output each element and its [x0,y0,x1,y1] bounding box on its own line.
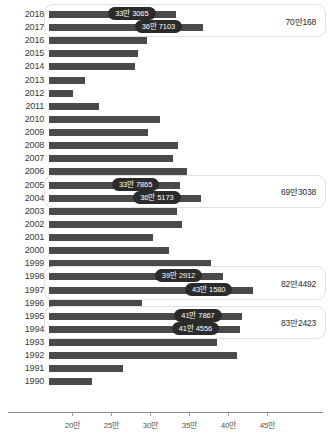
bar [49,103,99,110]
y-axis-tick-label: 2000 [6,244,44,257]
bar [49,339,217,346]
y-axis-tick-label: 2004 [6,192,44,205]
bar-row: 2007 [0,152,329,165]
bar [49,247,169,254]
x-axis-tick [228,412,229,416]
bar-value-label: 33만 7865 [112,178,159,191]
x-axis-tick-label: 25만 [104,419,119,430]
x-axis-tick-label: 30만 [143,419,158,430]
faint-artifact: · [207,1,209,7]
bar [49,63,135,70]
faint-artifact: · [286,1,288,7]
faint-artifact: · [301,1,303,7]
bar-row: 2000 [0,244,329,257]
bar [49,116,160,123]
bar-row: 2011 [0,100,329,113]
bar-value-label: 33만 3065 [108,7,155,20]
x-axis-tick-label: 20만 [65,419,80,430]
bar-row: 199441만 4556 [0,323,329,336]
bar [49,352,237,359]
bar-row: 1990 [0,375,329,388]
bar-value-label: 43만 1580 [185,283,232,296]
bar-row: 1992 [0,349,329,362]
y-axis-tick-label: 2001 [6,231,44,244]
bar [49,90,73,97]
bar-row: 2012 [0,87,329,100]
bar-row: 199541만 7867 [0,310,329,323]
y-axis-tick-label: 1999 [6,257,44,270]
bar [49,168,187,175]
bar-row: 2001 [0,231,329,244]
y-axis-tick-label: 2003 [6,205,44,218]
bar-row: 1999 [0,257,329,270]
bar-row: 2008 [0,139,329,152]
bar-row: 2014 [0,60,329,73]
bar [49,365,123,372]
x-axis-tick [267,412,268,416]
x-axis-tick [150,412,151,416]
bar-row: 199839만 2912 [0,270,329,283]
y-axis-tick-label: 2005 [6,179,44,192]
y-axis-tick-label: 2011 [6,100,44,113]
y-axis-tick-label: 2007 [6,152,44,165]
bar-row: 2010 [0,113,329,126]
y-axis-tick-label: 2016 [6,34,44,47]
x-axis-tick [111,412,112,416]
bar [49,129,148,136]
bar-value-label: 36만 7103 [135,20,182,33]
bar-row: 200436만 5173 [0,192,329,205]
bar-row: 1993 [0,336,329,349]
bar-value-label: 41만 4556 [172,322,219,335]
y-axis-tick-label: 1995 [6,310,44,323]
bar [49,234,153,241]
y-axis-tick-label: 2006 [6,165,44,178]
faint-artifact: · [242,1,244,7]
x-axis-tick-label: 35만 [182,419,197,430]
faint-artifact: · [227,1,229,7]
y-axis-tick-label: 2014 [6,60,44,73]
bar [49,50,138,57]
faint-artifact: · [257,1,259,7]
bar-row: 2003 [0,205,329,218]
bar-value-label: 36만 5173 [133,191,180,204]
faint-artifact: · [271,1,273,7]
bar-row: 2013 [0,74,329,87]
faint-artifact: · [192,1,194,7]
bar [49,77,85,84]
y-axis-tick-label: 1997 [6,284,44,297]
y-axis-tick-label: 1994 [6,323,44,336]
bar-row: 199743만 1580 [0,284,329,297]
y-axis-tick-label: 2015 [6,47,44,60]
x-axis-tick [72,412,73,416]
bar [49,300,142,307]
y-axis-tick-label: 1990 [6,375,44,388]
bar-row: 2016 [0,34,329,47]
bar [49,155,173,162]
x-axis-tick-label: 40만 [221,419,236,430]
y-axis-tick-label: 2017 [6,21,44,34]
bar [49,260,211,267]
bar-row: 2002 [0,218,329,231]
x-axis-tick-label: 45만 [260,419,275,430]
bar-row: 2009 [0,126,329,139]
y-axis-tick-label: 2002 [6,218,44,231]
y-axis-tick-label: 1993 [6,336,44,349]
y-axis-tick-label: 2008 [6,139,44,152]
bar-row: 200533만 7865 [0,179,329,192]
y-axis-tick-label: 1998 [6,270,44,283]
bar-row: 201833만 3065 [0,8,329,21]
x-axis-line [8,412,323,413]
bar-value-label: 39만 2912 [155,269,202,282]
y-axis-tick-label: 2012 [6,87,44,100]
bar [49,37,147,44]
y-axis-tick-label: 1992 [6,349,44,362]
bar [49,221,182,228]
bar-value-label: 41만 7867 [174,309,221,322]
bar-row: 1991 [0,362,329,375]
bar-row: 201736만 7103 [0,21,329,34]
y-axis-tick-label: 2010 [6,113,44,126]
faint-artifact: · [213,1,215,7]
bar [49,142,178,149]
bar [49,378,92,385]
bar-row: 1996 [0,297,329,310]
